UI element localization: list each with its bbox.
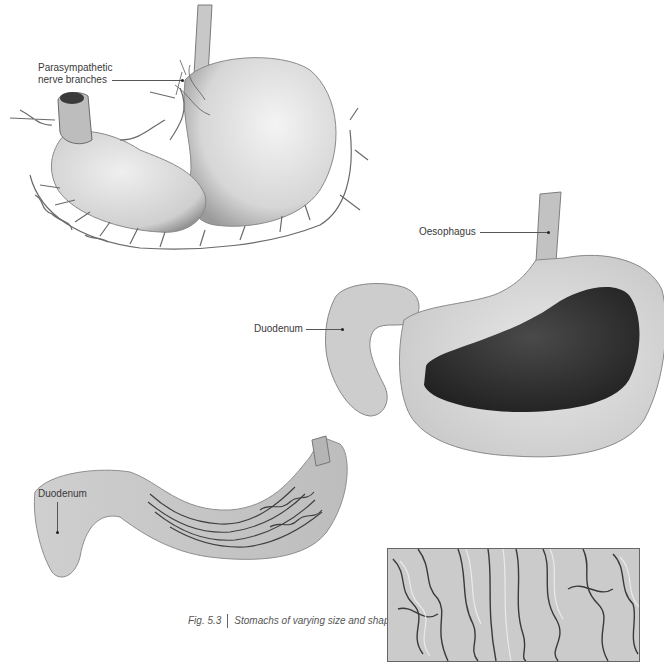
label-duodenum-bottom: Duodenum [38,488,87,500]
stomach-specimen-middle [304,180,664,470]
mucosa-closeup-inset [387,548,640,662]
label-oesophagus: Oesophagus [419,226,476,238]
leader-line-duodenum-middle [306,329,342,330]
rugae-texture [388,549,639,661]
figure-caption-text: Stomachs of varying size and shape [234,615,395,626]
label-duodenum-middle: Duodenum [254,323,303,335]
leader-dot-duodenum-middle [341,328,344,331]
leader-line-oesophagus [480,232,548,233]
caption-divider [227,614,228,628]
label-line-2: nerve branches [38,74,112,86]
leader-line-duodenum-bottom [57,502,58,532]
leader-dot-parasympathetic [181,79,184,82]
leader-dot-duodenum-bottom [56,531,59,534]
leader-dot-oesophagus [547,231,550,234]
figure-number: Fig. 5.3 [188,615,221,626]
stomach-specimen-bottom [30,432,390,592]
label-parasympathetic-nerve-branches: Parasympathetic nerve branches [38,62,112,86]
label-line-1: Parasympathetic [38,62,112,74]
leader-line-parasympathetic [112,80,182,81]
figure-caption: Fig. 5.3Stomachs of varying size and sha… [188,614,395,628]
